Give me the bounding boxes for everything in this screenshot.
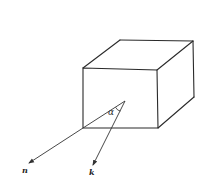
cube bbox=[83, 40, 194, 128]
cube-diagram: α n k bbox=[0, 0, 208, 186]
alpha-label: α bbox=[108, 107, 114, 117]
cube-edge-top-left bbox=[83, 40, 120, 68]
cube-front-face bbox=[83, 68, 158, 128]
alpha-angle-arc bbox=[116, 107, 121, 111]
cube-edge-top-back bbox=[120, 40, 193, 41]
cube-edge-bottom-right bbox=[158, 97, 194, 128]
n-label: n bbox=[22, 165, 28, 175]
cube-edge-top-right bbox=[157, 41, 193, 70]
k-label: k bbox=[89, 167, 95, 177]
cube-edge-back-right bbox=[193, 41, 194, 97]
n-vector bbox=[29, 128, 83, 163]
